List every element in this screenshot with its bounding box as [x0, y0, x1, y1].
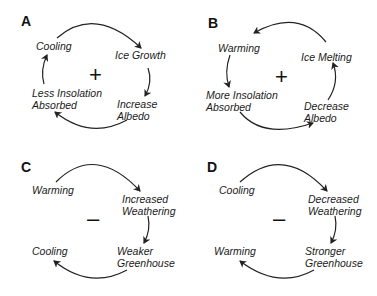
node-ice-melting: Ice Melting: [301, 51, 352, 63]
node-greenhouse: Greenhouse: [305, 257, 363, 269]
node-warming: Warming: [32, 184, 74, 196]
node-albedo: Albedo: [117, 110, 150, 122]
node-warming: Warming: [214, 245, 256, 257]
node-albedo: Albedo: [304, 112, 337, 124]
node-cooling: Cooling: [32, 245, 68, 257]
node-weathering: Weathering: [122, 205, 176, 217]
node-weathering: Weathering: [308, 205, 362, 217]
node-increase: Increase: [117, 98, 157, 110]
node-ice-growth: Ice Growth: [115, 49, 166, 61]
node-absorbed: Absorbed: [206, 101, 251, 113]
node-stronger: Stronger: [305, 245, 345, 257]
node-greenhouse: Greenhouse: [117, 257, 175, 269]
node-weaker: Weaker: [117, 245, 153, 257]
panel-label: B: [208, 15, 218, 31]
loop-sign-positive: +: [89, 64, 102, 86]
node-warming: Warming: [218, 42, 260, 54]
node-decrease: Decrease: [304, 100, 349, 112]
node-absorbed: Absorbed: [32, 99, 77, 111]
node-decreased: Decreased: [308, 193, 359, 205]
panel-b: B Warming Ice Melting Decrease Albedo Mo…: [188, 0, 376, 148]
loop-sign-negative: –: [273, 208, 285, 230]
node-cooling: Cooling: [219, 184, 255, 196]
node-more-insolation: More Insolation: [206, 89, 278, 101]
panel-label: A: [21, 13, 31, 29]
node-increased: Increased: [122, 193, 168, 205]
node-less-insolation: Less Insolation: [32, 87, 102, 99]
panel-label: C: [21, 159, 31, 175]
loop-sign-positive: +: [275, 66, 288, 88]
loop-sign-negative: –: [87, 208, 99, 230]
panel-a: A Cooling Ice Growth Increase Albedo Les…: [0, 0, 188, 148]
node-cooling: Cooling: [36, 40, 72, 52]
panel-d: D Cooling Decreased Weathering Stronger …: [188, 148, 376, 296]
panel-label: D: [207, 159, 217, 175]
panel-c: C Warming Increased Weathering Weaker Gr…: [0, 148, 188, 296]
